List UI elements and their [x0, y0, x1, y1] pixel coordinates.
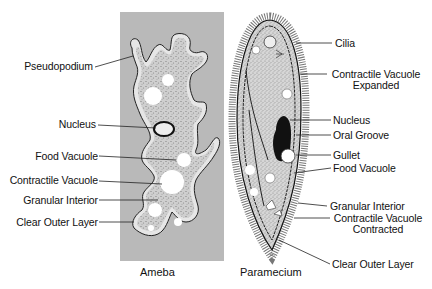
label-paramecium-clear-outer-layer: Clear Outer Layer — [332, 259, 414, 270]
label-pseudopodium: Pseudopodium — [4, 61, 93, 72]
label-oral-groove: Oral Groove — [333, 130, 389, 141]
label-ameba-food-vacuole: Food Vacuole — [4, 151, 98, 162]
ameba-vacuole-tiny2 — [148, 225, 154, 231]
caption-ameba: Ameba — [140, 266, 204, 278]
label-paramecium-nucleus: Nucleus — [333, 115, 370, 126]
label-contractile-vacuole-expanded: Contractile Vacuole Expanded — [328, 69, 424, 91]
label-ameba-granular-interior: Granular Interior — [4, 195, 98, 206]
ameba-vacuole-tiny — [174, 218, 182, 226]
label-paramecium-granular-interior: Granular Interior — [330, 201, 405, 212]
label-gullet: Gullet — [333, 150, 360, 161]
paramecium-body — [237, 20, 301, 250]
ameba-nucleus — [154, 122, 174, 136]
label-contractile-vacuole-contracted: Contractile Vacuole Contracted — [330, 213, 426, 235]
label-contractile-vacuole-expanded-line2: Expanded — [328, 80, 424, 91]
paramecium-contractile-vacuole-expanded — [264, 36, 276, 48]
ameba-food-vacuole — [177, 153, 191, 167]
caption-paramecium: Paramecium — [240, 266, 304, 278]
diagram-artwork — [0, 0, 432, 289]
ameba-food-vacuole-small — [162, 74, 174, 86]
label-ameba-contractile-vacuole: Contractile Vacuole — [0, 175, 98, 186]
paramecium-gullet — [281, 149, 295, 163]
paramecium-food-vacuole — [245, 165, 255, 175]
label-ameba-nucleus: Nucleus — [4, 119, 96, 130]
ameba-contractile-vacuole — [160, 170, 184, 194]
label-cilia: Cilia — [335, 38, 355, 49]
label-ameba-clear-outer-layer: Clear Outer Layer — [4, 217, 98, 228]
label-paramecium-food-vacuole: Food Vacuole — [333, 163, 396, 174]
label-contractile-vacuole-contracted-line2: Contracted — [330, 224, 426, 235]
ameba-illustration — [120, 12, 224, 261]
paramecium-illustration — [232, 16, 306, 258]
ameba-food-vacuole-upper — [144, 87, 162, 105]
ameba-vacuole-lower — [148, 203, 162, 217]
protist-diagram: Pseudopodium Nucleus Food Vacuole Contra… — [0, 0, 432, 289]
